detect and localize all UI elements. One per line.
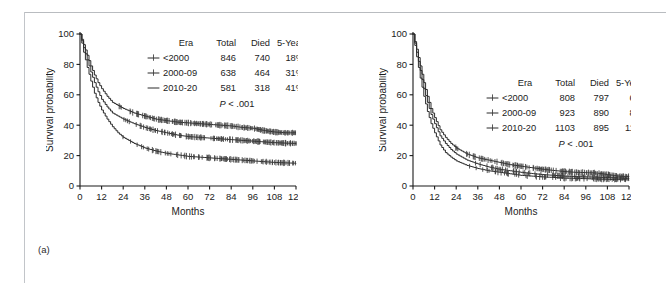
svg-text:96: 96 (581, 191, 592, 202)
svg-text:0: 0 (410, 191, 415, 202)
svg-text:2000-09: 2000-09 (163, 68, 197, 78)
svg-text:0: 0 (69, 180, 74, 191)
svg-text:12: 12 (429, 191, 440, 202)
svg-text:Months: Months (172, 206, 205, 217)
svg-text:20: 20 (63, 150, 74, 161)
svg-text:Months: Months (505, 206, 538, 217)
svg-text:923: 923 (559, 108, 575, 118)
svg-text:48: 48 (161, 191, 172, 202)
svg-text:60: 60 (516, 191, 527, 202)
svg-text:60: 60 (183, 191, 194, 202)
svg-text:100: 100 (391, 28, 407, 39)
svg-text:84: 84 (226, 191, 237, 202)
svg-text:0: 0 (402, 180, 407, 191)
svg-text:0: 0 (77, 191, 82, 202)
svg-text:<2000: <2000 (502, 93, 528, 103)
svg-text:12: 12 (96, 191, 107, 202)
svg-text:36: 36 (140, 191, 151, 202)
panel-label-a: (a) (38, 244, 50, 255)
svg-text:84: 84 (559, 191, 570, 202)
panel-a: 02040608010001224364860728496108120Month… (0, 0, 333, 283)
svg-text:Died: Died (251, 38, 270, 48)
svg-text:Total: Total (555, 78, 575, 88)
svg-text:11%: 11% (625, 123, 631, 133)
svg-text:2000-09: 2000-09 (502, 108, 536, 118)
svg-text:41%: 41% (285, 83, 298, 93)
svg-text:72: 72 (537, 191, 548, 202)
svg-text:<2000: <2000 (163, 53, 189, 63)
plot-area-a: 02040608010001224364860728496108120Month… (46, 28, 298, 218)
svg-text:24: 24 (118, 191, 129, 202)
svg-text:808: 808 (559, 93, 575, 103)
svg-text:Survival probability: Survival probability (46, 68, 55, 152)
svg-text:740: 740 (254, 53, 270, 63)
svg-text:20: 20 (396, 150, 407, 161)
svg-text:2010-20: 2010-20 (502, 123, 536, 133)
svg-text:6%: 6% (630, 93, 631, 103)
svg-text:80: 80 (63, 59, 74, 70)
svg-text:2010-20: 2010-20 (163, 83, 197, 93)
svg-text:1103: 1103 (555, 123, 575, 133)
svg-text:846: 846 (220, 53, 236, 63)
svg-text:318: 318 (254, 83, 270, 93)
svg-text:464: 464 (254, 68, 270, 78)
svg-text:Era: Era (518, 78, 533, 88)
svg-text:60: 60 (63, 89, 74, 100)
svg-text:80: 80 (396, 59, 407, 70)
svg-text:36: 36 (473, 191, 484, 202)
svg-text:8%: 8% (630, 108, 631, 118)
svg-text:P < .001: P < .001 (220, 99, 255, 109)
svg-text:Era: Era (179, 38, 194, 48)
svg-text:5-Year: 5-Year (616, 78, 631, 88)
svg-text:890: 890 (593, 108, 609, 118)
km-plot-a: 02040608010001224364860728496108120Month… (46, 28, 298, 218)
svg-text:40: 40 (396, 120, 407, 131)
plot-area-b: 02040608010001224364860728496108120Month… (379, 28, 631, 218)
svg-text:Survival probability: Survival probability (379, 68, 388, 152)
svg-text:895: 895 (593, 123, 609, 133)
svg-text:31%: 31% (285, 68, 298, 78)
svg-text:48: 48 (494, 191, 505, 202)
svg-text:120: 120 (288, 191, 298, 202)
svg-text:108: 108 (266, 191, 282, 202)
svg-text:60: 60 (396, 89, 407, 100)
svg-text:24: 24 (451, 191, 462, 202)
panel-b: 02040608010001224364860728496108120Month… (333, 0, 666, 283)
svg-text:108: 108 (599, 191, 615, 202)
svg-text:40: 40 (63, 120, 74, 131)
svg-text:120: 120 (621, 191, 631, 202)
svg-text:581: 581 (220, 83, 236, 93)
svg-text:96: 96 (248, 191, 259, 202)
svg-text:797: 797 (593, 93, 609, 103)
svg-text:Total: Total (216, 38, 236, 48)
svg-text:18%: 18% (285, 53, 298, 63)
km-plot-b: 02040608010001224364860728496108120Month… (379, 28, 631, 218)
svg-text:100: 100 (58, 28, 74, 39)
svg-text:72: 72 (204, 191, 215, 202)
svg-text:P < .001: P < .001 (559, 139, 594, 149)
svg-text:638: 638 (220, 68, 236, 78)
svg-text:Died: Died (590, 78, 609, 88)
svg-text:5-Year: 5-Year (277, 38, 298, 48)
